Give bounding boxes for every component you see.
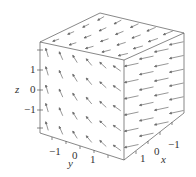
z-tick-neg1: −1 — [24, 104, 36, 115]
y-tick-neg1: −1 — [49, 146, 61, 157]
z-tick-0: 0 — [30, 84, 36, 95]
x-tick-neg1: −1 — [168, 139, 180, 150]
x-tick-0: 0 — [154, 146, 160, 157]
y-axis-label: y — [68, 158, 73, 169]
x-tick-1: 1 — [140, 153, 146, 164]
x-axis-label: x — [161, 154, 166, 165]
bounding-box — [40, 13, 184, 160]
z-tick-1: 1 — [30, 64, 36, 75]
vector-arrows — [45, 17, 183, 151]
y-tick-1: 1 — [90, 154, 96, 165]
z-axis-label: z — [15, 84, 19, 95]
